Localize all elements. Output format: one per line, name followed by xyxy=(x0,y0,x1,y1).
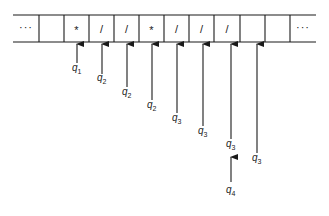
state-label: q2 xyxy=(122,86,132,99)
head-pointer-q2: q2 xyxy=(122,44,132,99)
tape: ···*//*///··· xyxy=(13,15,316,42)
state-label: q1 xyxy=(72,62,82,75)
head-pointer-q3: q3 xyxy=(198,44,208,138)
state-label: q3 xyxy=(252,152,262,165)
head-pointer-q3: q3 xyxy=(172,44,182,125)
tape-cell-symbol: / xyxy=(175,23,179,35)
head-pointer-q3: q3 xyxy=(252,44,262,165)
tape-cell-symbol: * xyxy=(74,24,79,36)
state-label: q2 xyxy=(147,99,157,112)
tape-cell-symbol: / xyxy=(125,23,129,35)
state-label: q3 xyxy=(198,125,208,138)
tape-cell-symbol: / xyxy=(225,23,229,35)
head-pointer-q1: q1 xyxy=(72,44,82,75)
head-pointer-q2: q2 xyxy=(97,44,107,85)
head-pointer-q2: q2 xyxy=(147,44,157,112)
head-pointer-q3: q3 xyxy=(226,44,236,151)
state-label: q4 xyxy=(226,184,236,197)
head-pointer-q4: q4 xyxy=(226,157,236,197)
state-label: q3 xyxy=(226,138,236,151)
tape-ellipsis: ··· xyxy=(19,21,33,33)
tape-ellipsis: ··· xyxy=(296,21,310,33)
turing-tape-diagram: ···*//*///··· q1q2q2q2q3q3q3q3q4 xyxy=(0,0,329,216)
tape-cell-symbol: / xyxy=(200,23,204,35)
tape-cell-symbol: / xyxy=(100,23,104,35)
state-label: q3 xyxy=(172,112,182,125)
tape-cell-symbol: * xyxy=(149,24,154,36)
head-pointers: q1q2q2q2q3q3q3q3q4 xyxy=(72,44,262,197)
state-label: q2 xyxy=(97,72,107,85)
